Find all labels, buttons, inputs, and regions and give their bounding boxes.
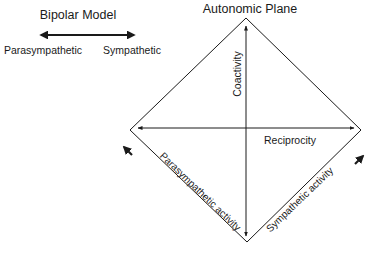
autonomic-plane-title: Autonomic Plane: [203, 2, 298, 16]
diagram-canvas: Bipolar Model Parasympathetic Sympatheti…: [0, 0, 371, 262]
sympathetic-activity-label: Sympathetic activity: [264, 165, 335, 234]
coactivity-label: Coactivity: [231, 50, 243, 96]
bipolar-parasympathetic-label: Parasympathetic: [4, 44, 82, 56]
bipolar-model-title: Bipolar Model: [40, 8, 116, 22]
bipolar-sympathetic-label: Sympathetic: [103, 44, 161, 56]
sympathetic-direction-arrow-icon: [355, 156, 363, 164]
parasympathetic-activity-label: Parasympathetic activity: [158, 150, 243, 233]
parasympathetic-direction-arrow-icon: [124, 147, 132, 155]
reciprocity-label: Reciprocity: [264, 134, 317, 146]
bipolar-model: Bipolar Model Parasympathetic Sympatheti…: [4, 8, 161, 56]
autonomic-plane: Autonomic Plane Coactivity Reciprocity P…: [124, 2, 363, 242]
